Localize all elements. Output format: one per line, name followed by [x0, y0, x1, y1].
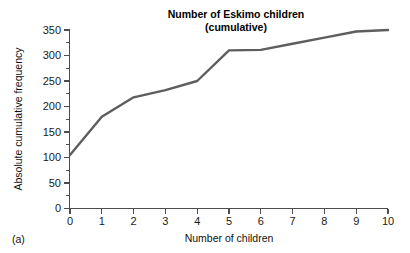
y-tick-label-300: 300: [43, 49, 61, 61]
x-tick-label-2: 2: [131, 215, 137, 227]
y-tick-label-0: 0: [55, 202, 61, 214]
y-tick-label-150: 150: [43, 126, 61, 138]
x-tick-label-3: 3: [162, 215, 168, 227]
chart-background: [0, 0, 410, 253]
x-axis-title: Number of children: [185, 232, 274, 244]
chart-title-line-1: Number of Eskimo children: [168, 8, 305, 20]
x-tick-label-4: 4: [194, 215, 200, 227]
x-tick-label-10: 10: [382, 215, 394, 227]
y-tick-label-50: 50: [49, 177, 61, 189]
y-axis-title: Absolute cumulative frequency: [12, 47, 24, 191]
y-tick-label-100: 100: [43, 151, 61, 163]
x-tick-label-9: 9: [353, 215, 359, 227]
x-tick-label-5: 5: [226, 215, 232, 227]
x-tick-label-7: 7: [290, 215, 296, 227]
y-tick-label-350: 350: [43, 24, 61, 36]
x-tick-label-8: 8: [321, 215, 327, 227]
x-tick-label-6: 6: [258, 215, 264, 227]
x-tick-label-0: 0: [67, 215, 73, 227]
x-tick-label-1: 1: [99, 215, 105, 227]
chart-title-line-2: (cumulative): [205, 21, 267, 33]
y-tick-label-250: 250: [43, 75, 61, 87]
y-tick-label-200: 200: [43, 100, 61, 112]
cumulative-frequency-line-chart: Number of Eskimo children (cumulative) 0: [0, 0, 410, 253]
panel-label: (a): [12, 233, 25, 245]
figure-panel: Number of Eskimo children (cumulative) 0: [0, 0, 410, 253]
